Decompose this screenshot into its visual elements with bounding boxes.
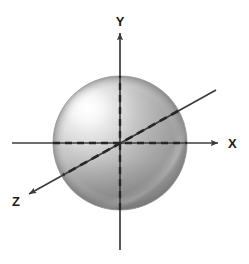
y-axis-label: Y <box>116 14 125 29</box>
coordinate-sphere-figure: X Y Z <box>0 0 249 264</box>
sphere-specular-highlight <box>62 86 114 130</box>
z-axis-label: Z <box>12 194 20 209</box>
x-axis-label: X <box>228 136 237 151</box>
